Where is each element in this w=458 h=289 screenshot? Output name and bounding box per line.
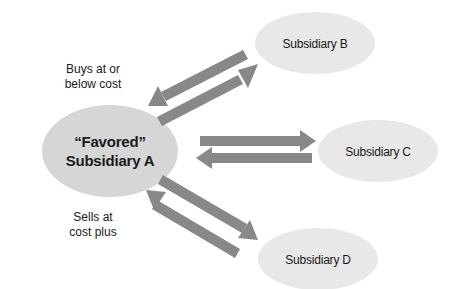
sells-annotation-line1: Sells at [69, 210, 116, 225]
node-a-label-line2: Subsidiary A [66, 151, 155, 170]
sells-annotation-line2: cost plus [69, 225, 116, 240]
buys-annotation: Buys at or below cost [65, 62, 122, 92]
node-a-label: “Favored” Subsidiary A [66, 132, 155, 170]
arrow-c-to-a [196, 147, 312, 169]
arrow-a-to-c [200, 130, 316, 152]
buys-annotation-line1: Buys at or [65, 62, 122, 77]
buys-annotation-line2: below cost [65, 77, 122, 92]
sells-annotation: Sells at cost plus [69, 210, 116, 240]
node-a-label-line1: “Favored” [66, 132, 155, 151]
node-b-label: Subsidiary B [283, 37, 348, 51]
node-d-label: Subsidiary D [285, 253, 351, 267]
node-c-label: Subsidiary C [345, 145, 411, 159]
